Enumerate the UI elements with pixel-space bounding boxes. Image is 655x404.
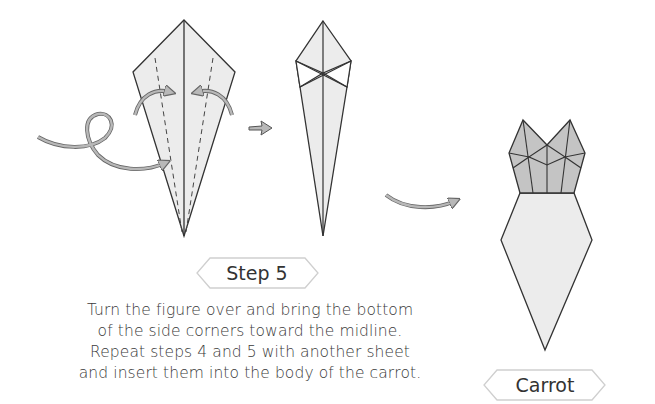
- figure-step5-kite: [38, 20, 235, 236]
- instruction-line: of the side corners toward the midline.: [30, 321, 470, 342]
- figure-carrot: [501, 120, 592, 350]
- figure-step5-result: [296, 21, 351, 236]
- carrot-label: Carrot: [484, 370, 606, 400]
- arrow-next-icon: [249, 121, 272, 135]
- step-label: Step 5: [196, 258, 318, 288]
- instructions-text: Turn the figure over and bring the botto…: [30, 300, 470, 384]
- instruction-line: and insert them into the body of the car…: [30, 363, 470, 384]
- instruction-line: Turn the figure over and bring the botto…: [30, 300, 470, 321]
- instruction-line: Repeat steps 4 and 5 with another sheet: [30, 342, 470, 363]
- arrow-to-carrot-icon: [386, 195, 455, 207]
